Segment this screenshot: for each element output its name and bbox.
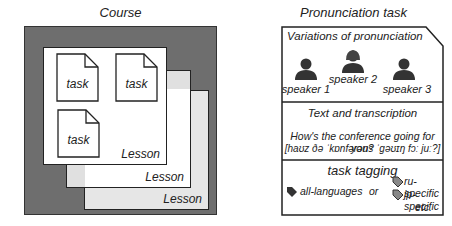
speaker-2-label: speaker 2: [325, 73, 381, 85]
text-heading: Text and transcription: [281, 107, 444, 119]
pronunciation-title: Pronunciation task: [281, 5, 426, 20]
speaker-3-label: speaker 3: [379, 83, 435, 95]
task-label: task: [115, 77, 158, 91]
transcription-text: [haʊz ðə ˈkɒnfərəns ˈgəʊɪŋ fɔː juː?]: [281, 143, 444, 154]
lesson-label: Lesson: [121, 147, 160, 161]
lesson-label: Lesson: [145, 170, 184, 184]
variations-heading: Variations of pronunciation: [287, 30, 444, 42]
task-document: task: [115, 53, 158, 102]
etc-label: etc.: [415, 201, 432, 213]
lesson-label: Lesson: [163, 192, 202, 206]
tag-icon: [286, 186, 298, 197]
person-icon: [294, 58, 318, 80]
task-document: task: [57, 109, 100, 158]
course-title: Course: [24, 5, 217, 20]
person-icon: [392, 58, 416, 80]
task-label: task: [56, 77, 99, 91]
person-female-icon: [341, 49, 365, 73]
all-languages-tag: all-languages: [300, 185, 362, 197]
pronunciation-task-card: Variations of pronunciation speaker 1 sp…: [281, 26, 444, 216]
task-document: task: [56, 53, 99, 102]
task-label: task: [57, 133, 100, 147]
or-label: or: [369, 185, 378, 197]
tag-icon: [392, 189, 404, 200]
tag-icon: [392, 176, 404, 187]
